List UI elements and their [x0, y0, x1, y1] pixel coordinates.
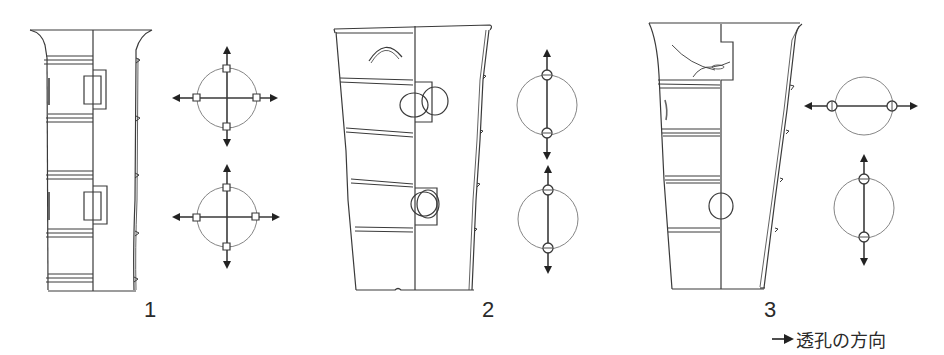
legend: 透孔の方向 — [772, 326, 886, 352]
arrow-right-icon — [772, 333, 794, 345]
figure-3-direction-upper — [808, 77, 914, 135]
figure-1-cylinder — [30, 30, 152, 291]
figure-1-direction-lower — [176, 168, 276, 265]
figure-2-bands — [340, 78, 413, 232]
haniwa-diagram — [0, 0, 944, 355]
figure-2-label: 2 — [482, 297, 494, 323]
figure-1-bands — [44, 56, 93, 282]
figure-3-label: 3 — [764, 297, 776, 323]
figure-3-hole — [709, 193, 721, 219]
figure-1-direction-upper — [176, 50, 274, 143]
figure-2-hole-upper — [400, 93, 428, 117]
figure-2-hole-lower — [417, 190, 439, 218]
figure-3-direction-lower — [834, 158, 894, 262]
figure-1-label: 1 — [144, 297, 156, 323]
figure-2-direction-lower — [518, 169, 578, 270]
figure-3-bands — [658, 80, 720, 232]
figure-2-cylinder — [334, 25, 492, 290]
legend-text: 透孔の方向 — [796, 326, 886, 352]
figure-3-cylinder — [649, 23, 802, 289]
figure-2-direction-upper — [517, 53, 577, 156]
